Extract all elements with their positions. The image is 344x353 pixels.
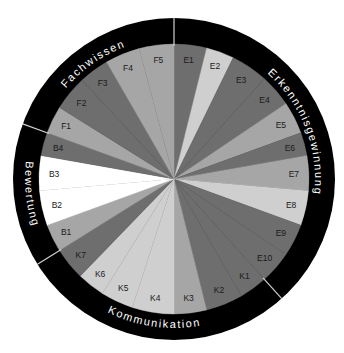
segment-label-e2: E2 [210,61,221,71]
segment-label-k1: K1 [239,271,250,281]
segment-label-e8: E8 [286,200,297,210]
segment-label-e4: E4 [259,95,270,105]
segment-label-k3: K3 [183,293,194,303]
segment-label-e5: E5 [276,120,287,130]
competence-wheel: E1E2E3E4E5E6E7E8E9E10K1K2K3K4K5K6K7B1B2B… [0,0,344,353]
segment-label-f1: F1 [61,121,71,131]
segment-label-b3: B3 [49,169,60,179]
segments-layer [39,44,309,314]
segment-label-k7: K7 [76,250,87,260]
segment-label-b2: B2 [52,200,63,210]
segment-label-k4: K4 [150,293,161,303]
segment-label-k5: K5 [118,283,129,293]
segment-label-e10: E10 [257,253,272,263]
segment-label-e1: E1 [183,55,194,65]
segment-label-k2: K2 [214,285,225,295]
segment-label-f3: F3 [98,78,108,88]
segment-label-e9: E9 [276,228,287,238]
segment-label-f2: F2 [76,98,86,108]
segment-label-e3: E3 [236,75,247,85]
segment-label-k6: K6 [95,269,106,279]
segment-label-e7: E7 [289,169,300,179]
segment-label-e6: E6 [285,143,296,153]
segment-label-f4: F4 [123,63,133,73]
segment-label-f5: F5 [153,55,163,65]
segment-label-b1: B1 [61,227,72,237]
segment-label-b4: B4 [53,143,64,153]
